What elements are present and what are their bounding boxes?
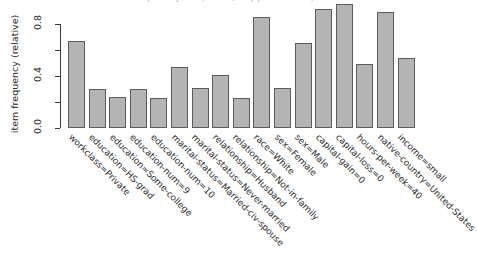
y-tick-label: 0.8 [32, 8, 43, 38]
bar [398, 58, 415, 128]
bar [109, 97, 126, 128]
bar [377, 12, 394, 128]
y-axis-title: item frequency (relative) [9, 0, 21, 149]
y-tick-label: 0.4 [32, 60, 43, 90]
bar [253, 17, 270, 128]
bar [315, 9, 332, 128]
bar [295, 43, 312, 128]
bar [356, 64, 373, 128]
y-tick-label-container: 0.4 [22, 69, 52, 83]
x-axis-label: native-country=United-States [375, 132, 476, 233]
y-axis-title-container: item frequency (relative) [8, 18, 22, 130]
plot-title: itemFrequencyPlot(Adult, support = 0.2) [104, 0, 314, 2]
bar [130, 89, 147, 128]
bar [171, 67, 188, 128]
bar [212, 75, 229, 128]
bar [233, 98, 250, 128]
bar [274, 88, 291, 128]
x-axis-labels: workclass=Privateeducation=HS-gradeducat… [0, 128, 419, 278]
plot-title-strip: itemFrequencyPlot(Adult, support = 0.2) [0, 0, 419, 7]
bar-series [60, 10, 412, 128]
bar [150, 98, 167, 128]
y-tick-label-container: 0.8 [22, 17, 52, 31]
bar [89, 89, 106, 128]
bar [68, 41, 85, 128]
bar [192, 88, 209, 128]
bar [336, 4, 353, 128]
